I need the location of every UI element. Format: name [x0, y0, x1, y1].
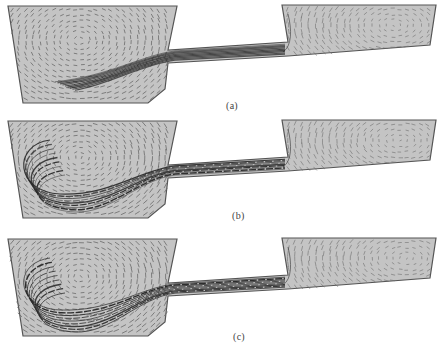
panel-caption: (a) [226, 100, 238, 111]
panel-a: (a) [0, 0, 443, 115]
flow-domain-plot [0, 233, 443, 348]
panel-caption: (c) [233, 331, 245, 342]
panel-b: (b) [0, 115, 443, 230]
panel-caption: (b) [232, 210, 245, 221]
flow-domain-plot [0, 115, 443, 230]
panel-c: (c) [0, 233, 443, 348]
flow-domain-plot [0, 0, 443, 115]
